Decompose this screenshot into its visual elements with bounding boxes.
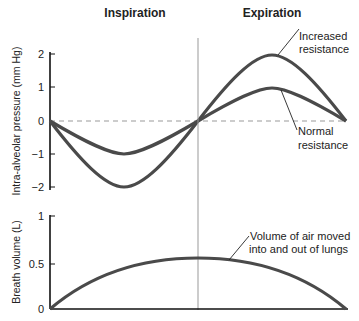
vtick-1: 1	[38, 210, 44, 222]
vtick-05: 0.5	[29, 258, 44, 270]
volume-ylabel: Breath volume (L)	[10, 220, 22, 303]
label-increased-line2: resistance	[299, 43, 349, 55]
label-increased-line1: Increased	[299, 30, 347, 42]
ytick-neg2: −2	[31, 181, 44, 193]
label-normal-line1: Normal	[298, 125, 333, 137]
volume-chart: Breath volume (L) 1 0.5 0 Volume of air …	[10, 210, 350, 315]
label-volume-line1: Volume of air moved	[250, 230, 350, 242]
respiration-figure: Inspiration Expiration Intra-alveolar pr…	[0, 0, 359, 321]
label-volume-line2: into and out of lungs	[249, 243, 349, 255]
label-normal-line2: resistance	[298, 139, 348, 151]
title-expiration: Expiration	[243, 6, 302, 20]
ytick-1: 1	[38, 81, 44, 93]
ytick-2: 2	[38, 48, 44, 60]
ytick-neg1: −1	[31, 148, 44, 160]
title-inspiration: Inspiration	[104, 6, 165, 20]
leader-increased	[278, 29, 299, 55]
leader-normal	[281, 90, 297, 130]
volume-ticks: 1 0.5 0	[29, 210, 55, 315]
pressure-ylabel: Intra-alveolar pressure (mm Hg)	[10, 47, 22, 196]
vtick-0: 0	[38, 303, 44, 315]
pressure-chart: Intra-alveolar pressure (mm Hg) 2 1 0 −1…	[10, 29, 349, 195]
leader-volume	[229, 236, 249, 260]
ytick-0: 0	[38, 115, 44, 127]
